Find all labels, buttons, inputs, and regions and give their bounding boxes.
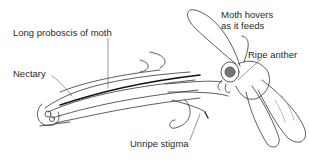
label-unripe-stigma: Unripe stigma: [130, 138, 189, 149]
stamens: [165, 81, 228, 118]
label-ripe-anther: Ripe anther: [248, 49, 297, 60]
label-proboscis: Long proboscis of moth: [13, 27, 112, 38]
label-moth-hovers: Moth hovers as it feeds: [221, 9, 273, 31]
label-moth-hovers-line1: Moth hovers: [221, 9, 273, 20]
label-moth-hovers-line2: as it feeds: [221, 20, 273, 31]
nectary-shape: [37, 104, 70, 126]
label-nectary: Nectary: [13, 68, 46, 79]
flower-tube: [45, 52, 200, 128]
